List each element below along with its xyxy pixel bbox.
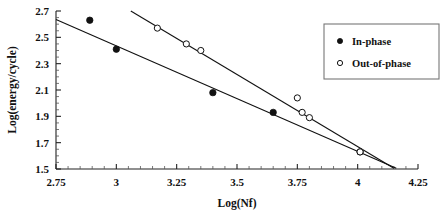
chart-legend: In-phase Out-of-phase	[324, 24, 439, 79]
legend-label-out-of-phase: Out-of-phase	[352, 58, 411, 69]
data-point-out-of-phase	[294, 95, 300, 101]
data-points	[87, 17, 364, 155]
y-tick-label: 2.5	[35, 31, 49, 43]
legend-label-in-phase: In-phase	[352, 36, 391, 47]
data-point-in-phase	[210, 89, 216, 95]
legend-box	[324, 24, 439, 79]
y-axis-tick-labels: 1.51.71.92.12.32.52.7	[35, 5, 49, 175]
x-tick-label: 2.75	[46, 176, 66, 188]
chart-figure: 2.7533.253.53.7544.25 1.51.71.92.12.32.5…	[0, 0, 447, 218]
data-point-out-of-phase	[299, 109, 305, 115]
data-point-in-phase	[113, 46, 119, 52]
legend-marker-in-phase	[337, 38, 342, 43]
data-point-in-phase	[270, 109, 276, 115]
x-axis-tick-labels: 2.7533.253.53.7544.25	[46, 176, 428, 188]
scatter-plot: 2.7533.253.53.7544.25 1.51.71.92.12.32.5…	[0, 0, 447, 218]
x-axis-ticks	[56, 164, 418, 169]
data-point-out-of-phase	[154, 25, 160, 31]
x-tick-label: 3	[114, 176, 120, 188]
y-tick-label: 2.7	[35, 5, 49, 17]
data-point-out-of-phase	[306, 115, 312, 121]
x-tick-label: 3.75	[288, 176, 308, 188]
data-point-out-of-phase	[198, 47, 204, 53]
legend-marker-out-of-phase	[337, 60, 342, 65]
data-point-in-phase	[87, 17, 93, 23]
x-axis-title: Log(Nf)	[218, 197, 257, 210]
y-tick-label: 1.7	[35, 137, 49, 149]
y-tick-label: 2.1	[35, 84, 49, 96]
data-point-out-of-phase	[183, 41, 189, 47]
y-tick-label: 2.3	[35, 58, 49, 70]
data-point-out-of-phase	[357, 149, 363, 155]
x-tick-label: 3.5	[230, 176, 244, 188]
x-tick-label: 4.25	[408, 176, 428, 188]
x-tick-label: 3.25	[167, 176, 187, 188]
x-tick-label: 4	[355, 176, 361, 188]
y-tick-label: 1.5	[35, 163, 49, 175]
y-tick-label: 1.9	[35, 110, 49, 122]
y-axis-ticks	[56, 11, 61, 169]
y-axis-title: Log(energy/cycle)	[6, 46, 19, 134]
